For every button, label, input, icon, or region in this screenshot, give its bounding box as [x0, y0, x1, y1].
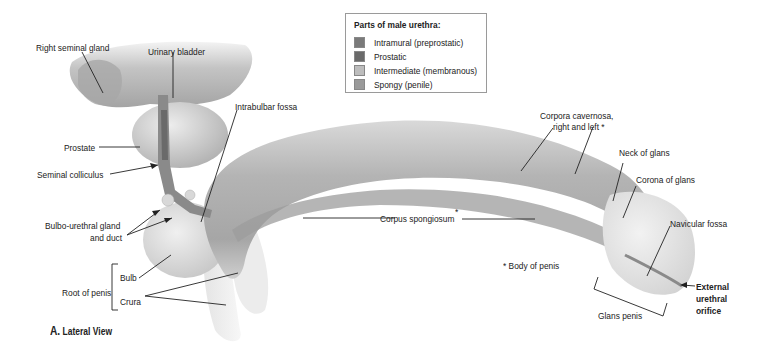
label-corpora-cavernosa-2: right and left *: [553, 121, 605, 132]
legend-item-spongy: Spongy (penile): [354, 78, 441, 90]
label-crura: Crura: [120, 296, 141, 307]
legend-title: Parts of male urethra:: [354, 19, 440, 30]
label-neck-of-glans: Neck of glans: [619, 147, 670, 158]
legend-item-prostatic: Prostatic: [354, 50, 411, 62]
caption-letter: A.: [50, 324, 60, 338]
label-bulbo-urethral-1: Bulbo-urethral gland: [45, 220, 120, 231]
figure-caption: A. Lateral View: [50, 324, 112, 338]
legend-label: Spongy (penile): [374, 79, 433, 90]
label-external-orifice-3: orifice: [696, 305, 721, 316]
label-bulb: Bulb: [120, 272, 137, 283]
urethra-parts-legend: Parts of male urethra: Intramural (prepr…: [345, 13, 487, 93]
label-corona-of-glans: Corona of glans: [636, 174, 695, 185]
legend-item-intramural: Intramural (preprostatic): [354, 36, 475, 48]
label-prostate: Prostate: [64, 142, 95, 153]
label-intrabulbar-fossa: Intrabulbar fossa: [235, 101, 297, 112]
swatch-spongy: [354, 79, 365, 90]
label-external-orifice-2: urethral: [696, 293, 727, 304]
legend-item-intermediate: Intermediate (membranous): [354, 64, 491, 76]
label-root-of-penis: Root of penis: [62, 287, 111, 298]
swatch-prostatic: [354, 51, 365, 62]
legend-label: Prostatic: [374, 51, 407, 62]
label-external-orifice-1: External: [696, 281, 729, 292]
prostate-shape: [132, 102, 228, 168]
swatch-intramural: [354, 37, 365, 48]
label-bulbo-urethral-2: and duct: [90, 232, 122, 243]
label-seminal-colliculus: Seminal colliculus: [37, 169, 103, 180]
label-corpus-spongiosum: Corpus spongiosum: [380, 213, 454, 224]
caption-text: Lateral View: [63, 326, 112, 337]
label-right-seminal-gland: Right seminal gland: [36, 42, 109, 53]
glans-shape: [603, 192, 695, 295]
label-glans-penis: Glans penis: [598, 310, 642, 321]
legend-label: Intramural (preprostatic): [374, 37, 463, 48]
label-corpora-cavernosa-1: Corpora cavernosa,: [540, 110, 613, 121]
label-navicular-fossa: Navicular fossa: [670, 218, 727, 229]
label-body-of-penis: * Body of penis: [503, 260, 559, 271]
label-urinary-bladder: Urinary bladder: [148, 46, 205, 57]
legend-label: Intermediate (membranous): [374, 65, 477, 76]
label-corpus-spongiosum-star: *: [455, 206, 458, 217]
swatch-intermediate: [354, 65, 365, 76]
